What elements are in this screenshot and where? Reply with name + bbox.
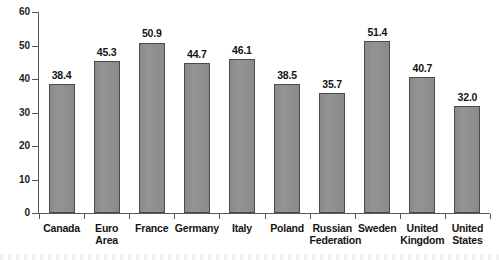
x-axis-line: [38, 213, 490, 214]
x-axis-category-label-line: Kingdom: [400, 234, 445, 246]
x-axis-category-label-line: States: [445, 234, 490, 246]
bars-container: [39, 12, 490, 213]
y-axis-tick-label: 60: [0, 7, 30, 17]
bar-value-label: 38.4: [40, 70, 84, 81]
bar-fill: [185, 64, 209, 212]
bar: [49, 84, 75, 213]
bar-fill: [455, 107, 479, 212]
bar-fill: [140, 44, 164, 213]
bar-fill: [320, 94, 344, 212]
bar-fill: [50, 85, 74, 212]
bar-value-label: 50.9: [130, 28, 174, 39]
x-axis-category-label-line: Germany: [174, 222, 219, 234]
y-axis-tick-label: 0: [0, 208, 30, 218]
x-axis-category-label: Italy: [219, 222, 264, 234]
x-axis-category-label-line: Federation: [310, 234, 355, 246]
x-axis-category-label-line: Sweden: [355, 222, 400, 234]
y-axis-tick-label: 20: [0, 141, 30, 151]
y-axis-tick-label: 40: [0, 74, 30, 84]
x-axis-category-label-line: United: [445, 222, 490, 234]
bar-fill: [410, 78, 434, 212]
y-axis-tick-label-text: 50: [1, 41, 30, 51]
x-axis-category-label-line: Canada: [39, 222, 84, 234]
x-axis-category-label: Poland: [265, 222, 310, 234]
x-axis-category-label: Euro Area: [84, 222, 129, 246]
bar: [229, 59, 255, 213]
bar-fill: [95, 62, 119, 212]
bar-value-label: 32.0: [445, 92, 489, 103]
bar: [454, 106, 480, 213]
footnote-strip: [0, 254, 499, 260]
bar: [274, 84, 300, 213]
x-axis-category-label-line: Italy: [219, 222, 264, 234]
bar: [319, 93, 345, 213]
x-axis-tick: [490, 214, 491, 219]
bar-value-label: 45.3: [85, 47, 129, 58]
bar-value-label: 35.7: [310, 79, 354, 90]
bar-value-label: 46.1: [220, 45, 264, 56]
x-axis-tick: [445, 214, 446, 219]
bar: [364, 41, 390, 213]
x-axis-tick: [219, 214, 220, 219]
x-axis-category-label-line: Russian: [310, 222, 355, 234]
x-axis-tick: [39, 214, 40, 219]
x-axis-tick: [355, 214, 356, 219]
x-axis-category-label: France: [129, 222, 174, 234]
y-axis-tick-label-text: 60: [1, 7, 30, 17]
x-axis-category-label-line: Euro Area: [84, 222, 129, 246]
y-axis-tick-label-text: 0: [1, 208, 30, 218]
x-axis-category-label: RussianFederation: [310, 222, 355, 246]
y-axis-tick-label-text: 40: [1, 74, 30, 84]
y-axis-tick-label-text: 20: [1, 141, 30, 151]
x-axis-category-label: Canada: [39, 222, 84, 234]
y-axis-tick-label-text: 10: [1, 175, 30, 185]
bar-fill: [365, 42, 389, 212]
bar: [184, 63, 210, 213]
x-axis-tick: [265, 214, 266, 219]
y-axis-tick-label: 50: [0, 41, 30, 51]
x-axis-category-label-line: France: [129, 222, 174, 234]
x-axis-tick: [129, 214, 130, 219]
x-axis-category-label-line: United: [400, 222, 445, 234]
x-axis-tick: [310, 214, 311, 219]
x-axis-tick: [84, 214, 85, 219]
x-axis-tick: [400, 214, 401, 219]
bar: [94, 61, 120, 213]
y-axis-tick-label-text: 30: [1, 108, 30, 118]
x-axis-category-label: UnitedStates: [445, 222, 490, 246]
bar-fill: [230, 60, 254, 212]
x-axis-tick: [174, 214, 175, 219]
bar-value-label: 38.5: [265, 70, 309, 81]
bar: [139, 43, 165, 214]
bar-value-label: 40.7: [400, 63, 444, 74]
x-axis-category-label: Germany: [174, 222, 219, 234]
bar-value-label: 44.7: [175, 49, 219, 60]
x-axis-category-label: Sweden: [355, 222, 400, 234]
y-axis-tick-label: 30: [0, 108, 30, 118]
bar-chart: 0102030405060 38.445.350.944.746.138.535…: [0, 0, 499, 260]
bar-fill: [275, 85, 299, 212]
bar-value-label: 51.4: [355, 27, 399, 38]
y-axis-tick-label: 10: [0, 175, 30, 185]
x-axis-category-label: UnitedKingdom: [400, 222, 445, 246]
x-axis-category-label-line: Poland: [265, 222, 310, 234]
bar: [409, 77, 435, 213]
